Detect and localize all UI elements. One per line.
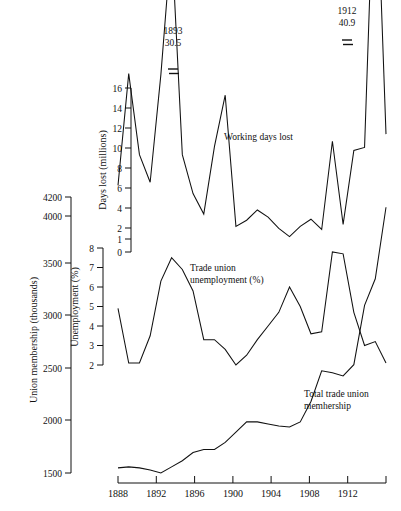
x-tick-label-1900: 1900 — [223, 488, 243, 499]
days-lost-axis-title: Days lost (millions) — [97, 130, 109, 209]
label-total-membership-line1: Total trade union — [304, 389, 369, 399]
days-lost-tick-1: 1 — [117, 235, 122, 245]
peak-annotation-1893: 1893 30.5 — [164, 26, 183, 48]
membership-tick-3500: 3500 — [43, 259, 62, 269]
days-lost-tick-16: 16 — [113, 84, 123, 94]
label-total-membership-line2: memhership — [304, 401, 351, 411]
label-trade-union-unemployment-line2: unemployment (%) — [190, 275, 264, 286]
unemployment-tick-7: 7 — [89, 263, 94, 273]
days-lost-axis: 16 14 12 10 8 6 4 2 1 0 Days lost (milli… — [97, 84, 131, 258]
series-working-days-lost — [118, 0, 386, 237]
unemployment-tick-5: 5 — [89, 302, 94, 312]
chart-svg: 1888 1892 1896 1900 1904 1908 1912 16 14… — [0, 0, 401, 511]
series-total-union-membership — [118, 207, 386, 473]
figure-root: 1888 1892 1896 1900 1904 1908 1912 16 14… — [0, 0, 401, 511]
days-lost-tick-2: 2 — [117, 224, 122, 234]
membership-tick-3000: 3000 — [43, 311, 62, 321]
label-working-days-lost: Working days lost — [224, 132, 293, 142]
x-tick-label-1888: 1888 — [108, 488, 128, 499]
label-trade-union-unemployment-line1: Trade union — [190, 263, 236, 273]
membership-tick-4200: 4200 — [43, 193, 62, 203]
series-trade-union-unemployment — [118, 252, 386, 365]
peak-1912-year: 1912 — [338, 6, 357, 16]
x-axis: 1888 1892 1896 1900 1904 1908 1912 — [108, 476, 386, 499]
unemployment-tick-4: 4 — [89, 322, 94, 332]
days-lost-tick-0: 0 — [117, 248, 122, 258]
membership-tick-1500: 1500 — [43, 469, 62, 479]
peak-annotation-1912: 1912 40.9 — [338, 6, 357, 28]
unemployment-tick-2: 2 — [89, 361, 94, 371]
x-tick-label-1904: 1904 — [261, 488, 281, 499]
membership-tick-2000: 2000 — [43, 416, 62, 426]
x-tick-label-1912: 1912 — [338, 488, 358, 499]
x-axis-ticks — [118, 476, 386, 483]
membership-axis: 4200 4000 3500 3000 2500 2000 1500 Union… — [28, 193, 71, 479]
unemployment-tick-6: 6 — [89, 283, 94, 293]
peak-1893-year: 1893 — [164, 26, 183, 36]
days-lost-tick-14: 14 — [113, 104, 123, 114]
x-tick-label-1892: 1892 — [146, 488, 166, 499]
peak-break-1893 — [168, 69, 179, 74]
days-lost-tick-12: 12 — [113, 124, 123, 134]
unemployment-axis: 8 7 6 5 4 3 2 Unemployment (%) — [69, 244, 103, 371]
days-lost-tick-4: 4 — [117, 204, 122, 214]
membership-axis-title: Union membership (thousands) — [28, 277, 40, 403]
peak-1893-value: 30.5 — [165, 38, 182, 48]
label-trade-union-unemployment: Trade union unemployment (%) — [190, 263, 264, 286]
x-tick-label-1908: 1908 — [299, 488, 319, 499]
unemployment-tick-8: 8 — [89, 244, 94, 254]
unemployment-tick-3: 3 — [89, 341, 94, 351]
peak-break-1912 — [342, 40, 353, 45]
peak-1912-value: 40.9 — [339, 18, 356, 28]
membership-tick-2500: 2500 — [43, 364, 62, 374]
membership-tick-4000: 4000 — [43, 212, 62, 222]
x-tick-label-1896: 1896 — [185, 488, 205, 499]
label-total-trade-union-membership: Total trade union memhership — [304, 389, 369, 411]
